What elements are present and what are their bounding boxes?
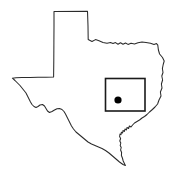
texas-map-svg xyxy=(0,0,176,176)
map-figure xyxy=(0,0,176,176)
city-location-dot xyxy=(114,96,121,103)
